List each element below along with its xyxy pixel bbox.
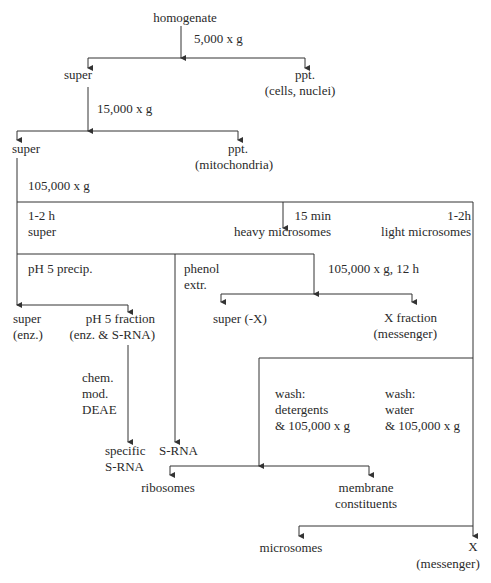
node-membrane: membrane xyxy=(339,480,394,496)
node-ph5-fraction-sub: (enz. & S-RNA) xyxy=(69,327,155,343)
node-super-3: super xyxy=(28,224,56,240)
label-water: water xyxy=(385,402,414,418)
node-x-final-sub: (messenger) xyxy=(416,556,480,572)
node-super-enz: super xyxy=(13,311,41,327)
label-extr: extr. xyxy=(184,277,207,293)
label-wash-2-spin: & 105,000 x g xyxy=(385,418,460,434)
label-ph5-precip: pH 5 precip. xyxy=(28,261,93,277)
node-ppt-1-sub: (cells, nuclei) xyxy=(265,83,336,99)
node-x-final: X xyxy=(468,539,477,555)
label-phenol: phenol xyxy=(184,261,219,277)
node-x-fraction: X fraction xyxy=(384,310,437,326)
label-5000g: 5,000 x g xyxy=(194,31,243,47)
label-wash-1-spin: & 105,000 x g xyxy=(275,418,350,434)
node-homogenate: homogenate xyxy=(153,10,217,26)
node-constituents: constituents xyxy=(335,496,397,512)
flow-lines xyxy=(0,0,491,583)
node-srna: S-RNA xyxy=(159,443,198,459)
label-wash-2: wash: xyxy=(385,386,415,402)
label-1-2h-c: 1-2h xyxy=(447,208,471,224)
node-ph5-fraction: pH 5 fraction xyxy=(86,311,155,327)
label-mod: mod. xyxy=(82,386,108,402)
node-specific-srna: S-RNA xyxy=(105,459,144,475)
label-15000g: 15,000 x g xyxy=(97,101,152,117)
label-chem: chem. xyxy=(82,370,113,386)
node-super-enz-sub: (enz.) xyxy=(13,327,43,343)
node-microsomes: microsomes xyxy=(260,540,323,556)
label-105000g: 105,000 x g xyxy=(28,178,90,194)
label-1-2h-a: 1-2 h xyxy=(28,208,55,224)
node-super-1: super xyxy=(64,67,92,83)
node-specific: specific xyxy=(105,443,145,459)
label-deae: DEAE xyxy=(82,402,117,418)
label-wash-1: wash: xyxy=(275,386,305,402)
node-ppt-2: ppt. xyxy=(228,141,248,157)
node-x-fraction-sub: (messenger) xyxy=(373,326,437,342)
node-heavy-microsomes: heavy microsomes xyxy=(234,224,331,240)
node-ppt-2-sub: (mitochondria) xyxy=(195,157,273,173)
node-super-2: super xyxy=(12,141,40,157)
label-105000g-12h: 105,000 x g, 12 h xyxy=(328,261,419,277)
label-detergents: detergents xyxy=(275,402,328,418)
node-ribosomes: ribosomes xyxy=(141,480,194,496)
node-super-minus-x: super (-X) xyxy=(213,311,267,327)
label-15min: 15 min xyxy=(295,208,331,224)
node-light-microsomes: light microsomes xyxy=(381,224,471,240)
node-ppt-1: ppt. xyxy=(295,67,315,83)
